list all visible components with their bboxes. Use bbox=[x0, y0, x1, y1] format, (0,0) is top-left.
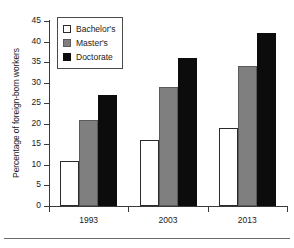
x-axis-tick bbox=[49, 207, 50, 212]
bar-chart-figure: Percentage of foreign-born workers 05101… bbox=[0, 0, 294, 248]
bar-masters-1993 bbox=[79, 120, 98, 206]
footer-divider bbox=[4, 238, 290, 239]
x-axis-tick bbox=[208, 207, 209, 212]
legend-item-doctorate: Doctorate bbox=[63, 50, 115, 64]
x-axis-tick-label: 2003 bbox=[138, 215, 198, 225]
y-axis-tick-label: 40 bbox=[22, 36, 41, 46]
y-axis-tick-label: 5 bbox=[22, 179, 41, 189]
x-axis-tick bbox=[128, 207, 129, 212]
bar-masters-2003 bbox=[159, 87, 178, 206]
bar-doctorate-2003 bbox=[178, 58, 197, 206]
bar-doctorate-2013 bbox=[257, 33, 276, 206]
x-axis-line bbox=[49, 206, 288, 207]
gray-square-icon bbox=[63, 39, 71, 47]
y-axis-tick-label: 20 bbox=[22, 118, 41, 128]
bar-bachelors-2003 bbox=[140, 140, 159, 206]
chart-legend: Bachelor'sMaster'sDoctorate bbox=[57, 17, 123, 69]
x-axis-tick-label: 1993 bbox=[59, 215, 119, 225]
bar-bachelors-1993 bbox=[60, 161, 79, 206]
bar-doctorate-1993 bbox=[98, 95, 117, 206]
y-axis-tick-label: 45 bbox=[22, 15, 41, 25]
y-axis-tick-label: 30 bbox=[22, 77, 41, 87]
black-square-icon bbox=[63, 53, 71, 61]
bar-bachelors-2013 bbox=[219, 128, 238, 206]
bar-masters-2013 bbox=[238, 66, 257, 206]
y-axis-tick-label: 35 bbox=[22, 56, 41, 66]
x-axis-tick-label: 2013 bbox=[217, 215, 277, 225]
x-axis-tick bbox=[287, 207, 288, 212]
white-square-icon bbox=[63, 25, 71, 33]
legend-item-masters: Master's bbox=[63, 36, 115, 50]
legend-item-label: Doctorate bbox=[76, 52, 113, 62]
y-axis-tick-label: 25 bbox=[22, 97, 41, 107]
legend-item-label: Bachelor's bbox=[76, 24, 115, 34]
legend-item-bachelors: Bachelor's bbox=[63, 22, 115, 36]
y-axis-tick-label: 0 bbox=[22, 200, 41, 210]
legend-item-label: Master's bbox=[76, 38, 108, 48]
y-axis-title: Percentage of foreign-born workers bbox=[11, 15, 21, 211]
y-axis-tick-label: 10 bbox=[22, 159, 41, 169]
y-axis-tick-label: 15 bbox=[22, 138, 41, 148]
